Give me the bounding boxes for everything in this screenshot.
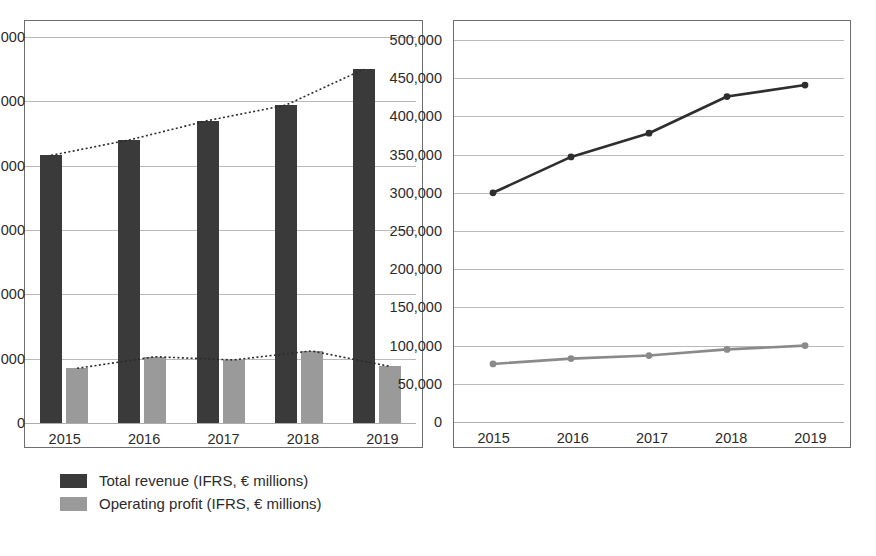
x-axis-tick-label: 2017 [612, 430, 691, 446]
bar-revenue-2019 [353, 69, 375, 423]
y-axis-tick-label: 100,000 [390, 338, 442, 353]
revenue-profit-y-axis: 30,00025,00020,00015,00010,0005,0000 [0, 21, 25, 447]
revenue-profit-x-axis: 20152016201720182019 [25, 431, 422, 447]
customers-employees-x-axis: 20152016201720182019 [454, 430, 850, 446]
bar-group-2015 [25, 21, 103, 447]
data-point-marker [802, 82, 809, 89]
customers-employees-plot-frame: 500,000450,000400,000350,000300,000250,0… [453, 20, 851, 448]
y-axis-tick-label: 25,000 [0, 94, 25, 109]
x-axis-tick-label: 2018 [692, 430, 771, 446]
revenue-profit-panel: 30,00025,00020,00015,00010,0005,0000 201… [0, 0, 440, 556]
bar-revenue-2015 [40, 155, 62, 423]
customers-employees-plot-area: 500,000450,000400,000350,000300,000250,0… [454, 21, 850, 447]
legend-item-operating-profit: Operating profit (IFRS, € millions) [60, 495, 322, 512]
revenue-profit-plot-frame: 30,00025,00020,00015,00010,0005,0000 201… [24, 20, 423, 448]
y-axis-tick-label: 20,000 [0, 158, 25, 173]
y-axis-tick-label: 150,000 [390, 300, 442, 315]
x-axis-tick-label: 2018 [263, 431, 342, 447]
y-axis-tick-label: 0 [17, 416, 25, 431]
y-axis-tick-label: 400,000 [390, 109, 442, 124]
y-axis-tick-label: 300,000 [390, 186, 442, 201]
legend-item-total-revenue: Total revenue (IFRS, € millions) [60, 472, 322, 489]
y-axis-tick-label: 350,000 [390, 147, 442, 162]
x-axis-tick-label: 2015 [454, 430, 533, 446]
y-axis-tick-label: 450,000 [390, 71, 442, 86]
x-axis-tick-label: 2016 [104, 431, 183, 447]
y-axis-tick-label: 0 [434, 415, 442, 430]
customers-employees-lines [454, 21, 844, 447]
x-axis-tick-label: 2016 [533, 430, 612, 446]
bar-group-2017 [181, 21, 259, 447]
data-point-marker [802, 342, 809, 349]
data-point-marker [568, 355, 575, 362]
data-point-marker [646, 352, 653, 359]
data-point-marker [568, 153, 575, 160]
data-point-marker [724, 346, 731, 353]
x-axis-tick-label: 2019 [771, 430, 850, 446]
y-axis-tick-label: 5,000 [0, 351, 25, 366]
revenue-profit-plot-area: 30,00025,00020,00015,00010,0005,0000 201… [25, 21, 422, 447]
y-axis-tick-label: 30,000 [0, 30, 25, 45]
legend-label-operating-profit: Operating profit (IFRS, € millions) [99, 495, 322, 512]
legend-label-total-revenue: Total revenue (IFRS, € millions) [99, 472, 308, 489]
bar-revenue-2017 [197, 121, 219, 423]
legend-swatch-operating-profit [60, 497, 87, 511]
y-axis-tick-label: 500,000 [390, 33, 442, 48]
y-axis-tick-label: 50,000 [398, 377, 442, 392]
y-axis-tick-label: 200,000 [390, 262, 442, 277]
bar-revenue-2018 [275, 105, 297, 423]
data-point-marker [724, 93, 731, 100]
bar-group-2016 [103, 21, 181, 447]
line-series-0 [493, 85, 805, 193]
bar-profit-2016 [144, 357, 166, 423]
revenue-profit-bars-layer [25, 21, 416, 447]
data-point-marker [490, 189, 497, 196]
bar-revenue-2016 [118, 140, 140, 423]
legend-swatch-total-revenue [60, 474, 87, 488]
customers-employees-y-axis: 500,000450,000400,000350,000300,000250,0… [376, 21, 442, 447]
y-axis-tick-label: 10,000 [0, 287, 25, 302]
data-point-marker [490, 361, 497, 368]
bar-profit-2015 [66, 368, 88, 423]
bar-profit-2017 [223, 360, 245, 423]
revenue-profit-legend: Total revenue (IFRS, € millions) Operati… [60, 472, 322, 512]
customers-employees-panel: 500,000450,000400,000350,000300,000250,0… [440, 0, 876, 556]
y-axis-tick-label: 15,000 [0, 223, 25, 238]
x-axis-tick-label: 2015 [25, 431, 104, 447]
bar-group-2018 [260, 21, 338, 447]
bar-profit-2018 [301, 351, 323, 423]
data-point-marker [646, 130, 653, 137]
x-axis-tick-label: 2017 [184, 431, 263, 447]
y-axis-tick-label: 250,000 [390, 224, 442, 239]
charts-page: 30,00025,00020,00015,00010,0005,0000 201… [0, 0, 876, 556]
